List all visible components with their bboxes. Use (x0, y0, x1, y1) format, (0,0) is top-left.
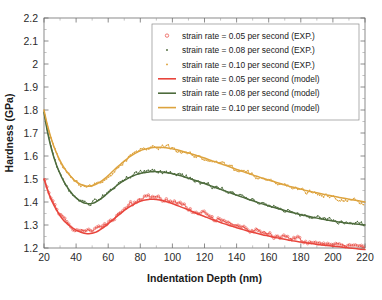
exp-marker (307, 192, 308, 193)
y-tick-label: 1.8 (23, 104, 38, 116)
exp-marker (287, 209, 288, 210)
exp-marker (140, 148, 141, 149)
exp-marker (241, 194, 242, 195)
legend-label: strain rate = 0.10 per second (model) (182, 103, 320, 113)
exp-marker (319, 195, 320, 196)
exp-marker (196, 157, 197, 158)
legend-entry-2[interactable]: strain rate = 0.10 per second (EXP.) (166, 60, 315, 70)
legend-label: strain rate = 0.05 per second (model) (182, 74, 320, 84)
exp-marker (323, 197, 324, 198)
y-tick-label: 1.7 (23, 127, 38, 139)
exp-marker (112, 173, 113, 174)
exp-marker (134, 172, 135, 173)
legend-entry-3[interactable]: strain rate = 0.05 per second (model) (158, 74, 320, 84)
exp-marker (361, 202, 362, 203)
exp-marker (317, 194, 318, 195)
exp-marker (277, 184, 278, 185)
exp-marker (154, 169, 155, 170)
exp-marker (199, 183, 200, 184)
legend-label: strain rate = 0.05 per second (EXP.) (182, 31, 315, 41)
exp-marker (108, 176, 109, 177)
x-tick-label: 140 (228, 251, 246, 263)
legend-entry-0[interactable]: strain rate = 0.05 per second (EXP.) (165, 31, 315, 41)
y-tick-label: 2.2 (23, 12, 38, 24)
exp-marker (247, 170, 248, 171)
exp-marker (166, 170, 167, 171)
exp-marker (229, 165, 230, 166)
exp-marker (170, 171, 171, 172)
exp-marker (341, 199, 342, 200)
x-tick-label: 60 (102, 251, 114, 263)
exp-marker (84, 200, 85, 201)
x-tick-label: 220 (356, 251, 374, 263)
legend-label: strain rate = 0.10 per second (EXP.) (182, 60, 315, 70)
exp-marker (221, 161, 222, 162)
exp-marker (146, 170, 147, 171)
chart-legend: strain rate = 0.05 per second (EXP.)stra… (152, 24, 359, 120)
exp-marker (122, 164, 123, 165)
legend-dot-marker (166, 49, 168, 51)
exp-marker (317, 215, 318, 216)
x-axis-title: Indentation Depth (nm) (147, 272, 262, 284)
exp-marker (329, 217, 330, 218)
exp-marker (178, 151, 179, 152)
legend-entry-4[interactable]: strain rate = 0.08 per second (model) (158, 88, 320, 98)
y-tick-label: 1.3 (23, 219, 38, 231)
exp-marker (136, 171, 137, 172)
exp-marker (243, 170, 244, 171)
x-tick-label: 200 (324, 251, 342, 263)
y-tick-label: 1.5 (23, 173, 38, 185)
exp-marker (359, 203, 360, 204)
legend-label: strain rate = 0.08 per second (model) (182, 88, 320, 98)
exp-marker (347, 201, 348, 202)
y-tick-label: 1.6 (23, 150, 38, 162)
exp-marker (337, 200, 338, 201)
y-tick-label: 2 (32, 58, 38, 70)
exp-marker (162, 173, 163, 174)
x-tick-label: 160 (260, 251, 278, 263)
exp-marker (205, 160, 206, 161)
exp-marker (339, 200, 340, 201)
exp-marker (223, 162, 224, 163)
exp-marker (110, 175, 111, 176)
exp-marker (102, 182, 103, 183)
exp-marker (94, 198, 95, 199)
exp-marker (106, 178, 107, 179)
exp-marker (343, 200, 344, 201)
exp-marker (194, 156, 195, 157)
exp-marker (251, 198, 252, 199)
exp-marker (126, 176, 127, 177)
exp-marker (78, 184, 79, 185)
exp-marker (114, 171, 115, 172)
exp-marker (231, 165, 232, 166)
hardness-vs-depth-chart: 204060801001201401601802002201.21.31.41.… (0, 0, 382, 300)
exp-marker (168, 144, 169, 145)
exp-marker (255, 178, 256, 179)
exp-marker (233, 169, 234, 170)
exp-marker (335, 198, 336, 199)
exp-marker (221, 187, 222, 188)
exp-marker (263, 202, 264, 203)
x-tick-label: 20 (38, 251, 50, 263)
x-tick-label: 100 (164, 251, 182, 263)
legend-entry-5[interactable]: strain rate = 0.10 per second (model) (158, 103, 320, 113)
exp-marker (144, 170, 145, 171)
exp-marker (140, 170, 141, 171)
chart-figure: 204060801001201401601802002201.21.31.41.… (0, 0, 382, 300)
exp-marker (201, 159, 202, 160)
exp-marker (361, 221, 362, 222)
x-tick-label: 80 (134, 251, 146, 263)
exp-marker (180, 151, 181, 152)
exp-marker (102, 194, 103, 195)
x-tick-label: 120 (196, 251, 214, 263)
exp-marker (207, 182, 208, 183)
legend-entry-1[interactable]: strain rate = 0.08 per second (EXP.) (166, 45, 315, 55)
y-tick-label: 1.2 (23, 242, 38, 254)
exp-marker (273, 205, 274, 206)
exp-marker (329, 197, 330, 198)
exp-marker (152, 169, 153, 170)
exp-marker (166, 145, 167, 146)
exp-marker (152, 145, 153, 146)
exp-marker (363, 204, 364, 205)
exp-marker (158, 149, 159, 150)
